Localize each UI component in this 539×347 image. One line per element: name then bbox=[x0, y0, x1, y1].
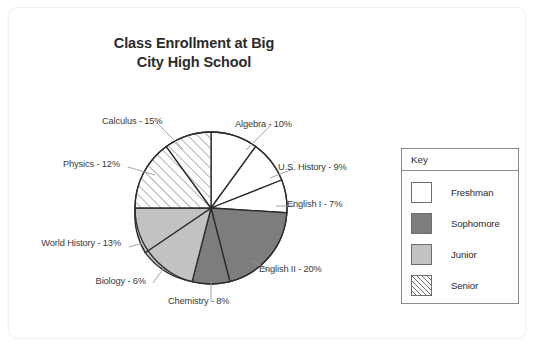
legend-item-sophomore[interactable]: Sophomore bbox=[402, 208, 518, 239]
legend-header: Key bbox=[402, 149, 518, 171]
legend-label-junior: Junior bbox=[451, 249, 477, 260]
legend-swatch-junior bbox=[411, 244, 432, 265]
legend-swatch-sophomore bbox=[411, 213, 432, 234]
legend-title: Key bbox=[411, 154, 428, 165]
legend-items: Freshman Sophomore Junior Senior bbox=[402, 171, 518, 301]
chart-card: Class Enrollment at Big City High School bbox=[8, 7, 526, 339]
legend-label-freshman: Freshman bbox=[451, 187, 493, 198]
legend-label-senior: Senior bbox=[451, 280, 478, 291]
pie-label-english-i: English I - 7% bbox=[287, 199, 342, 209]
legend-item-senior[interactable]: Senior bbox=[402, 270, 518, 301]
pie-label-calculus: Calculus - 15% bbox=[102, 116, 162, 126]
pie-label-biology: Biology - 6% bbox=[49, 276, 146, 286]
chart-legend: Key Freshman Sophomore Junior Senior bbox=[401, 148, 519, 304]
legend-swatch-senior bbox=[411, 275, 432, 296]
legend-item-freshman[interactable]: Freshman bbox=[402, 177, 518, 208]
pie-label-english-ii: English II - 20% bbox=[259, 264, 322, 274]
leader-biology bbox=[153, 269, 163, 283]
pie-label-world-history: World History - 13% bbox=[17, 238, 121, 248]
pie-label-us-history: U.S. History - 9% bbox=[278, 162, 347, 172]
pie-label-chemistry: Chemistry - 8% bbox=[168, 296, 229, 306]
legend-item-junior[interactable]: Junior bbox=[402, 239, 518, 270]
pie-slices bbox=[135, 132, 287, 284]
pie-label-physics: Physics - 12% bbox=[28, 159, 120, 169]
pie-label-algebra: Algebra - 10% bbox=[235, 119, 292, 129]
legend-swatch-freshman bbox=[411, 182, 432, 203]
legend-label-sophomore: Sophomore bbox=[451, 218, 500, 229]
